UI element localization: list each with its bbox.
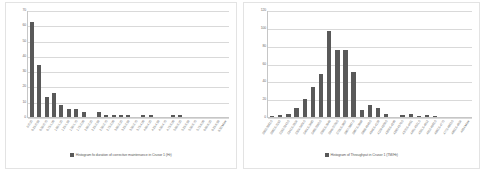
chart-panel-throughput: 020406080100120 3002-3082.53082.5-316331… [243,2,480,169]
legend-label: Histogram of Throughput in Crusor 1 (TM/… [331,153,398,157]
bar-column [132,11,139,117]
bar-column [341,11,349,117]
x-axis-tick: 3887.5-3968 [357,120,365,152]
bar-column [169,11,176,117]
bar [368,105,372,117]
bar-column [325,11,333,117]
bar-series-throughput [268,11,472,117]
plot-area-throughput: 020406080100120 3002-3082.53082.5-316331… [244,3,479,168]
y-axis-tick-label: 0 [264,116,266,120]
bar-column [73,11,80,117]
bar-column [147,11,154,117]
bar-column [162,11,169,117]
bar-column [88,11,95,117]
bar [294,108,298,117]
bar-column [309,11,317,117]
bar [425,115,429,117]
bar-column [366,11,374,117]
bar [409,114,413,117]
x-axis-tick: 6.50 More [222,120,229,152]
y-axis-tick-label: 60 [262,63,266,67]
bar [178,115,182,117]
bar [149,115,153,117]
bar-column [95,11,102,117]
legend-throughput: Histogram of Throughput in Crusor 1 (TM/… [244,153,479,157]
bar-column [80,11,87,117]
bar [360,110,364,117]
bar-column [214,11,221,117]
y-axis-tick-label: 20 [22,86,26,90]
bar [67,109,71,117]
bar-column [140,11,147,117]
x-axis-tick: 4290-4370.5 [398,120,406,152]
x-axis-tick: 4692.5-4773 [439,120,447,152]
bar [45,97,49,117]
bar-column [423,11,431,117]
bar-column [102,11,109,117]
bar-column [43,11,50,117]
y-axis-tick-label: 50 [22,40,26,44]
bar-column [276,11,284,117]
bar [30,22,34,117]
legend-swatch-icon [325,153,328,156]
bar [303,99,307,117]
bar-column [456,11,464,117]
bar-column [301,11,309,117]
bar-column [333,11,341,117]
plot-canvas-throughput [267,11,472,118]
y-axis-tick-label: 0 [24,116,26,120]
bar-column [464,11,472,117]
bar-column [431,11,439,117]
bar [286,114,290,117]
bar-column [268,11,276,117]
bar-column [50,11,57,117]
bar-column [350,11,358,117]
bar-column [117,11,124,117]
bar-column [28,11,35,117]
plot-canvas-duration [27,11,229,118]
y-axis-throughput: 020406080100120 [251,11,267,118]
bar-series-duration [28,11,229,117]
bar [112,115,116,117]
y-axis-tick-label: 40 [262,81,266,85]
chart-panel-duration: 010203040506070 0-0.250.25-0.500.50-0.75… [5,2,237,169]
bar [278,115,282,117]
bar-column [154,11,161,117]
bar-column [207,11,214,117]
bar [400,115,404,117]
y-axis-tick-label: 30 [22,70,26,74]
bar-column [439,11,447,117]
bar [433,116,437,117]
x-axis-tick: 3485-3565.5 [316,120,324,152]
bar [384,114,388,117]
x-axis-tick: 4934-More [464,120,472,152]
bar-column [415,11,423,117]
bar-column [447,11,455,117]
legend-label: Histogram fo duration of corrective main… [76,153,172,157]
legend-duration: Histogram fo duration of corrective main… [6,153,236,157]
bar-column [374,11,382,117]
bar-column [184,11,191,117]
bar [104,115,108,117]
bar-column [382,11,390,117]
y-axis-tick-label: 70 [22,9,26,13]
y-axis-tick-label: 10 [22,101,26,105]
chart-sheet: 010203040506070 0-0.250.25-0.500.50-0.75… [0,0,485,171]
plot-area-duration: 010203040506070 0-0.250.25-0.500.50-0.75… [6,3,236,168]
y-axis-tick-label: 80 [262,45,266,49]
bar [74,109,78,117]
x-axis-tick: 3082.5-3163 [275,120,283,152]
bar-column [110,11,117,117]
bar-column [65,11,72,117]
bar [311,87,315,117]
bar [126,115,130,117]
bar-column [221,11,228,117]
bar [417,116,421,117]
bar [335,50,339,117]
bar-column [177,11,184,117]
bar [37,65,41,117]
bar-column [399,11,407,117]
bar [97,112,101,117]
bar-column [292,11,300,117]
legend-swatch-icon [70,153,73,156]
